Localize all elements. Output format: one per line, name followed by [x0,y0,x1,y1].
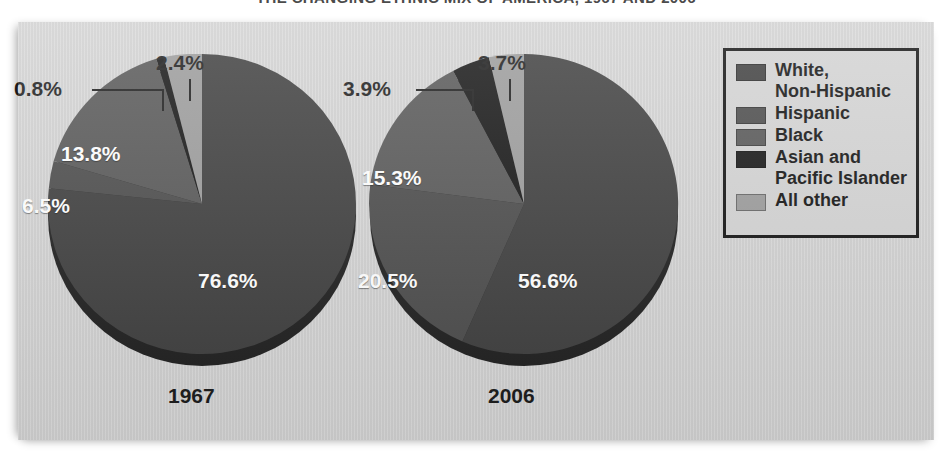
pie-1967-leader-asian [92,89,164,91]
legend-label-all-other: All other [775,190,848,211]
pie-2006-leader-asian [416,89,474,91]
plot-area: 76.6% 6.5% 13.8% 0.8% 2.4% 1967 [18,22,934,440]
pie-1967-label-black: 13.8% [61,142,121,166]
legend-item-white-non-hispanic: White, Non-Hispanic [736,60,908,102]
pie-2006-leader-other-stem [509,79,511,101]
pie-1967-year: 1967 [168,384,215,408]
legend-label-asian-pacific-islander: Asian and [775,147,861,167]
legend-swatch-asian-pacific-islander [736,151,766,168]
pie-1967-body [46,54,358,366]
pie-2006-leader-asian-stem [472,89,474,111]
pie-2006-slices [368,54,680,366]
pie-2006-label-hispanic: 20.5% [358,269,418,293]
pie-2006-label-other: 3.7% [478,51,526,75]
pie-1967-label-other: 2.4% [156,51,204,75]
pie-2006-label-black: 15.3% [362,166,422,190]
legend-item-all-other: All other [736,190,908,211]
legend-label-white-non-hispanic: White, [775,60,829,80]
legend-item-hispanic: Hispanic [736,103,908,124]
pie-1967-leader-other-stem [189,79,191,101]
pie-2006-label-white: 56.6% [518,269,578,293]
page-title: THE CHANGING ETHNIC MIX OF AMERICA, 1967… [0,0,952,6]
pie-1967-label-white: 76.6% [198,269,258,293]
legend-label-black: Black [775,125,823,146]
figure-frame: 76.6% 6.5% 13.8% 0.8% 2.4% 1967 [18,22,934,440]
legend-swatch-hispanic [736,107,766,124]
pie-1967-label-asian: 0.8% [14,77,62,101]
legend-item-asian-pacific-islander: Asian and Pacific Islander [736,147,908,189]
pie-1967-leader-asian-stem [162,89,164,111]
pie-2006-year: 2006 [488,384,535,408]
pie-1967-slices [46,54,358,366]
legend-swatch-white-non-hispanic [736,64,766,81]
pie-1967-label-hispanic: 6.5% [22,194,70,218]
chart-title-band: THE CHANGING ETHNIC MIX OF AMERICA, 1967… [0,0,952,14]
legend-label-hispanic: Hispanic [775,103,850,124]
pie-chart-1967: 76.6% 6.5% 13.8% 0.8% 2.4% 1967 [46,54,376,414]
legend-label-white-non-hispanic-line2: Non-Hispanic [775,81,891,102]
legend-swatch-black [736,129,766,146]
legend: White, Non-Hispanic Hispanic Black Asian… [723,48,919,238]
legend-label-asian-pacific-islander-line2: Pacific Islander [775,168,907,189]
legend-swatch-all-other [736,194,766,211]
pie-2006-label-asian: 3.9% [343,77,391,101]
legend-item-black: Black [736,125,908,146]
pie-chart-2006: 56.6% 20.5% 15.3% 3.9% 3.7% 2006 [368,54,698,414]
pie-2006-body [368,54,680,366]
